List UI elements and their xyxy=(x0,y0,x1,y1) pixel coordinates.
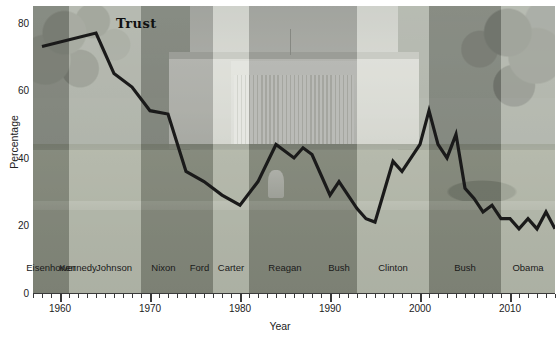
series-annotation-trust: Trust xyxy=(116,16,157,31)
president-label-ford: Ford xyxy=(190,262,210,273)
x-tick-minor xyxy=(87,294,88,298)
president-label-nixon: Nixon xyxy=(151,262,175,273)
y-tick-label: 0 xyxy=(23,288,29,299)
x-tick-minor xyxy=(375,294,376,298)
plot-area xyxy=(33,6,555,293)
x-tick-label: 1980 xyxy=(229,303,251,314)
x-tick-minor xyxy=(132,294,133,298)
x-tick-minor xyxy=(501,294,502,298)
x-tick-minor xyxy=(105,294,106,298)
president-label-bush: Bush xyxy=(328,262,350,273)
x-tick-minor xyxy=(114,294,115,298)
x-tick-minor xyxy=(231,294,232,298)
x-tick-minor xyxy=(366,294,367,298)
x-axis-title: Year xyxy=(0,320,560,332)
x-tick-minor xyxy=(177,294,178,298)
x-tick-minor xyxy=(42,294,43,298)
x-tick-minor xyxy=(348,294,349,298)
x-tick-minor xyxy=(204,294,205,298)
x-tick-minor xyxy=(294,294,295,298)
x-tick-minor xyxy=(492,294,493,298)
x-tick-minor xyxy=(222,294,223,298)
x-tick-minor xyxy=(312,294,313,298)
x-tick-label: 2000 xyxy=(409,303,431,314)
x-tick-minor xyxy=(465,294,466,298)
x-tick-minor xyxy=(339,294,340,298)
x-tick-major xyxy=(420,294,422,302)
y-tick-label: 60 xyxy=(18,85,29,96)
y-axis: Percentage 020406080 xyxy=(0,0,33,300)
x-tick-minor xyxy=(555,294,556,298)
x-tick-label: 1990 xyxy=(319,303,341,314)
x-tick-minor xyxy=(78,294,79,298)
x-tick-minor xyxy=(429,294,430,298)
president-label-clinton: Clinton xyxy=(378,262,408,273)
x-tick-minor xyxy=(33,294,34,298)
trust-polyline xyxy=(42,33,555,229)
president-label-johnson: Johnson xyxy=(96,262,132,273)
y-tick-label: 20 xyxy=(18,220,29,231)
x-tick-minor xyxy=(447,294,448,298)
x-tick-minor xyxy=(159,294,160,298)
x-tick-major xyxy=(330,294,332,302)
x-tick-minor xyxy=(96,294,97,298)
chart-figure: Percentage 020406080 Trust EisenhowerKen… xyxy=(0,0,560,341)
president-label-reagan: Reagan xyxy=(268,262,301,273)
x-axis-ticks xyxy=(33,294,555,303)
x-tick-minor xyxy=(249,294,250,298)
y-tick-label: 40 xyxy=(18,152,29,163)
x-tick-major xyxy=(60,294,62,302)
x-tick-label: 1960 xyxy=(49,303,71,314)
x-tick-minor xyxy=(213,294,214,298)
y-tick-label: 80 xyxy=(18,17,29,28)
x-tick-minor xyxy=(483,294,484,298)
x-tick-minor xyxy=(393,294,394,298)
x-tick-minor xyxy=(195,294,196,298)
x-tick-minor xyxy=(186,294,187,298)
y-axis-title: Percentage xyxy=(8,102,20,182)
x-tick-major xyxy=(150,294,152,302)
president-label-bush: Bush xyxy=(454,262,476,273)
x-tick-minor xyxy=(474,294,475,298)
x-tick-minor xyxy=(438,294,439,298)
trust-line-series xyxy=(33,6,555,293)
x-tick-major xyxy=(510,294,512,302)
x-tick-minor xyxy=(168,294,169,298)
x-tick-minor xyxy=(123,294,124,298)
x-tick-minor xyxy=(456,294,457,298)
x-tick-label: 2010 xyxy=(499,303,521,314)
president-label-carter: Carter xyxy=(218,262,244,273)
x-tick-minor xyxy=(276,294,277,298)
x-tick-label: 1970 xyxy=(139,303,161,314)
x-tick-minor xyxy=(51,294,52,298)
x-tick-minor xyxy=(528,294,529,298)
x-tick-minor xyxy=(411,294,412,298)
x-tick-minor xyxy=(546,294,547,298)
x-tick-major xyxy=(240,294,242,302)
x-tick-minor xyxy=(69,294,70,298)
president-label-kennedy: Kennedy xyxy=(59,262,97,273)
x-tick-minor xyxy=(519,294,520,298)
x-tick-minor xyxy=(267,294,268,298)
x-tick-minor xyxy=(537,294,538,298)
x-tick-minor xyxy=(384,294,385,298)
president-label-obama: Obama xyxy=(512,262,543,273)
x-tick-minor xyxy=(258,294,259,298)
president-label-row: EisenhowerKennedyJohnsonNixonFordCarterR… xyxy=(33,262,555,278)
x-tick-minor xyxy=(303,294,304,298)
x-tick-minor xyxy=(402,294,403,298)
x-axis-tick-labels: 196019701980199020002010 xyxy=(33,303,555,317)
x-tick-minor xyxy=(285,294,286,298)
x-tick-minor xyxy=(357,294,358,298)
x-tick-minor xyxy=(321,294,322,298)
x-tick-minor xyxy=(141,294,142,298)
